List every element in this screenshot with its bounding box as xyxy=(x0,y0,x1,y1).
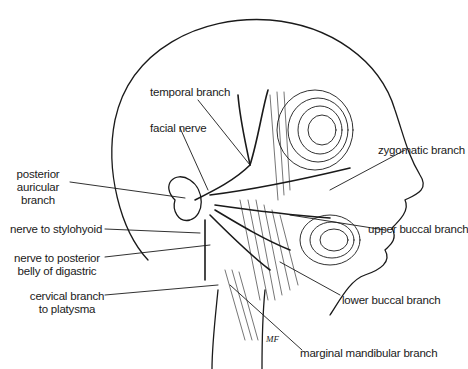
label-line: cervical branch xyxy=(28,290,106,303)
neck-back xyxy=(212,290,218,369)
neck-front xyxy=(262,290,265,369)
facial-nerve-branches xyxy=(195,90,350,280)
label-lower-buccal-branch: lower buccal branch xyxy=(342,294,440,307)
head-outline xyxy=(112,20,423,315)
label-posterior-auricular-branch: posterior auricular branch xyxy=(6,168,70,207)
label-nerve-to-posterior-belly: nerve to posterior belly of digastric xyxy=(12,252,102,278)
label-cervical-branch: cervical branch to platysma xyxy=(28,290,106,316)
label-zygomatic-branch: zygomatic branch xyxy=(378,144,465,157)
label-line: nerve to posterior xyxy=(12,252,102,265)
label-upper-buccal-branch: upper buccal branch xyxy=(368,223,468,236)
orbicularis-oculi xyxy=(277,90,353,170)
orbicularis-oris xyxy=(300,215,360,265)
muscle-hatching xyxy=(225,92,298,340)
label-line: posterior xyxy=(6,168,70,181)
label-line: to platysma xyxy=(28,303,106,316)
label-line: branch xyxy=(6,194,70,207)
label-line: belly of digastric xyxy=(12,265,102,278)
artist-signature: MF xyxy=(266,334,279,344)
label-nerve-to-stylohyoid: nerve to stylohyoid xyxy=(10,223,102,236)
label-temporal-branch: temporal branch xyxy=(150,86,230,99)
leader-lines xyxy=(70,100,405,350)
label-line: auricular xyxy=(6,181,70,194)
label-marginal-mandibular-branch: marginal mandibular branch xyxy=(300,347,437,360)
label-facial-nerve: facial nerve xyxy=(150,122,206,135)
